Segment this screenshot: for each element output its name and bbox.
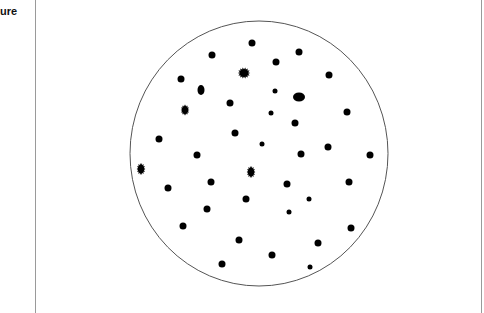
colony-dot-irregular (137, 163, 146, 175)
colony-dot (204, 206, 211, 213)
colony-dot (208, 179, 215, 186)
colony-dot (287, 210, 292, 215)
colony-dot (326, 72, 333, 79)
colony-dot (156, 136, 163, 143)
colony-dot (315, 240, 322, 247)
colony-dot (367, 152, 374, 159)
colony-dot (180, 223, 187, 230)
colony-dot (344, 109, 351, 116)
colony-dot-irregular (238, 68, 251, 79)
colony-dot (260, 142, 265, 147)
colony-dot (348, 225, 355, 232)
colony-dot-irregular (181, 105, 190, 116)
colony-dot-irregular (247, 166, 256, 178)
petri-dish-figure (0, 0, 484, 313)
colony-dot (178, 76, 185, 83)
colony-dot (346, 179, 353, 186)
petri-dish-outline (130, 21, 388, 286)
colony-dot (273, 89, 278, 94)
colony-dot (273, 59, 280, 66)
colony-dot (325, 144, 332, 151)
colony-dot (284, 181, 291, 188)
colony-dot (198, 85, 205, 95)
colony-dot (269, 252, 276, 259)
colony-dot (236, 237, 243, 244)
colony-dot (296, 49, 303, 56)
colony-dot (219, 261, 226, 268)
colony-dot (269, 111, 274, 116)
colony-dot (209, 52, 216, 59)
colony-dot (292, 120, 299, 127)
colony-dots (137, 40, 374, 270)
colony-dot (243, 196, 250, 203)
colony-dot (293, 93, 305, 102)
colony-dot (308, 265, 313, 270)
colony-dot (227, 100, 234, 107)
colony-dot (232, 130, 239, 137)
colony-dot (165, 185, 172, 192)
colony-dot (249, 40, 256, 47)
colony-dot (307, 197, 312, 202)
colony-dot (194, 152, 201, 159)
colony-dot (298, 151, 305, 158)
